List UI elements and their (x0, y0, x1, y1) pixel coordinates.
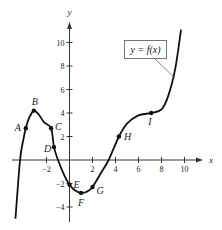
point-b-marker (32, 108, 36, 112)
point-a-marker (24, 126, 28, 130)
x-tick-label: −2 (42, 165, 51, 174)
point-d-marker (52, 145, 56, 149)
point-d-label: D (43, 143, 52, 154)
y-tick-label: −2 (56, 180, 65, 189)
point-i-marker (149, 111, 153, 115)
y-tick-label: −4 (56, 203, 65, 212)
point-i-label: I (147, 116, 152, 127)
labeled-points: ABCDEFGHI (14, 96, 154, 208)
point-e-marker (67, 182, 71, 186)
point-a-label: A (14, 122, 22, 133)
y-tick-label: 8 (61, 62, 65, 71)
y-tick-label: 4 (61, 109, 65, 118)
point-h-marker (117, 134, 121, 138)
function-graph: xy−2246810−4−2246810 ABCDEFGHI y = f(x) (0, 0, 222, 230)
x-axis-label: x (208, 155, 213, 165)
y-tick-label: 10 (57, 39, 65, 48)
point-g-label: G (97, 185, 104, 196)
y-tick-label: 2 (61, 133, 65, 142)
point-c-marker (49, 126, 53, 130)
y-axis-arrow-icon (67, 22, 72, 29)
point-b-label: B (32, 96, 38, 107)
axes: xy−2246810−4−2246810 (12, 7, 213, 222)
x-axis-arrow-icon (196, 158, 203, 163)
x-tick-label: 6 (137, 165, 141, 174)
x-tick-label: 2 (91, 165, 95, 174)
x-tick-label: 10 (181, 165, 189, 174)
y-axis-label: y (67, 7, 72, 17)
legend-leader-line (155, 59, 175, 78)
point-f-marker (79, 191, 83, 195)
point-h-label: H (123, 131, 132, 142)
legend: y = f(x) (125, 41, 176, 79)
y-tick-label: 6 (61, 86, 65, 95)
point-c-label: C (55, 121, 62, 132)
point-e-label: E (73, 179, 80, 190)
x-tick-label: 4 (114, 165, 118, 174)
point-f-label: F (77, 197, 85, 208)
point-g-marker (90, 185, 94, 189)
legend-label: y = f(x) (129, 44, 161, 56)
x-tick-label: 8 (160, 165, 164, 174)
